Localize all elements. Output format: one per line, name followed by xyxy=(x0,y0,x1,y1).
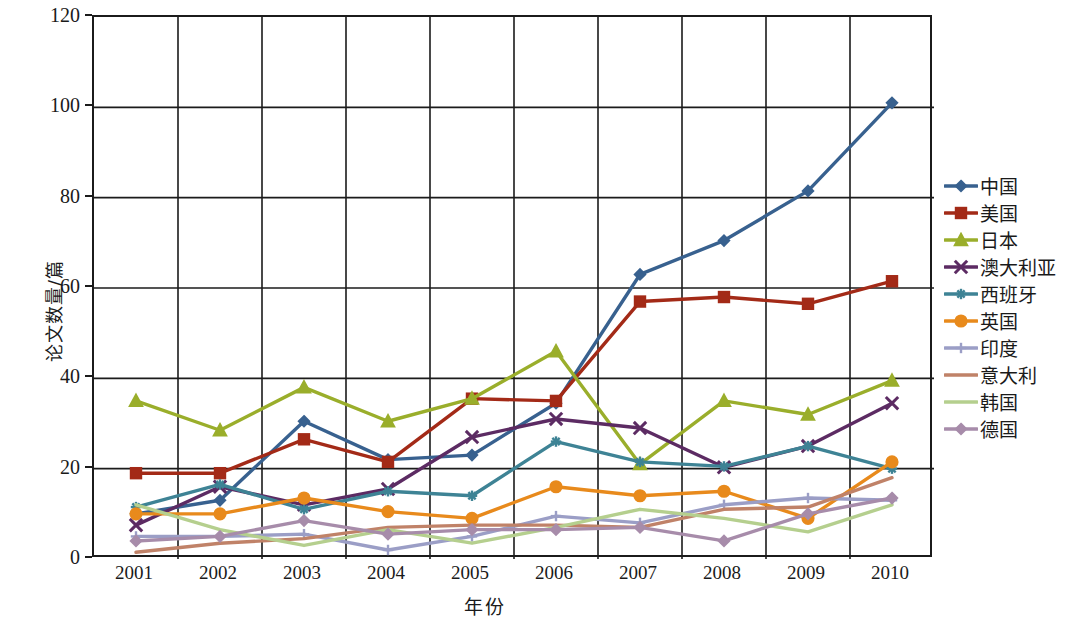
legend-label: 西班牙 xyxy=(980,280,1037,307)
y-tick-label: 80 xyxy=(24,186,80,206)
legend-swatch-icon xyxy=(944,178,978,194)
y-tick-mark xyxy=(85,104,92,106)
legend-swatch-icon xyxy=(944,313,978,329)
y-tick-mark xyxy=(85,285,92,287)
legend-item-2: 日本 xyxy=(944,226,1076,253)
y-tick-mark xyxy=(85,195,92,197)
legend-label: 韩国 xyxy=(980,388,1018,415)
y-tick-label: 40 xyxy=(24,366,80,386)
legend-swatch-icon xyxy=(944,367,978,383)
y-tick-label: 0 xyxy=(24,547,80,567)
legend-item-7: 意大利 xyxy=(944,361,1076,388)
legend-label: 澳大利亚 xyxy=(980,253,1056,280)
legend-swatch-icon xyxy=(944,259,978,275)
x-tick-label: 2005 xyxy=(430,562,510,584)
legend-label: 意大利 xyxy=(980,361,1037,388)
y-tick-label: 60 xyxy=(24,276,80,296)
legend-label: 日本 xyxy=(980,226,1018,253)
legend-item-4: 西班牙 xyxy=(944,280,1076,307)
legend-item-3: 澳大利亚 xyxy=(944,253,1076,280)
legend-item-8: 韩国 xyxy=(944,388,1076,415)
y-tick-mark xyxy=(85,556,92,558)
legend-label: 美国 xyxy=(980,199,1018,226)
legend-item-9: 德国 xyxy=(944,415,1076,442)
y-tick-mark xyxy=(85,466,92,468)
x-tick-label: 2004 xyxy=(346,562,426,584)
x-tick-label: 2007 xyxy=(598,562,678,584)
x-tick-label: 2002 xyxy=(178,562,258,584)
x-tick-label: 2003 xyxy=(262,562,342,584)
y-tick-mark xyxy=(85,375,92,377)
legend-label: 德国 xyxy=(980,415,1018,442)
legend-label: 印度 xyxy=(980,334,1018,361)
chart-legend: 中国美国日本澳大利亚西班牙英国印度意大利韩国德国 xyxy=(944,172,1076,442)
plot-area xyxy=(92,15,932,557)
x-axis-title: 年份 xyxy=(0,592,1079,619)
x-axis-title-text: 年份 xyxy=(464,596,506,618)
legend-swatch-icon xyxy=(944,286,978,302)
legend-item-1: 美国 xyxy=(944,199,1076,226)
y-tick-label: 120 xyxy=(24,5,80,25)
legend-label: 英国 xyxy=(980,307,1018,334)
legend-item-6: 印度 xyxy=(944,334,1076,361)
chart-canvas xyxy=(94,17,934,559)
x-tick-label: 2006 xyxy=(514,562,594,584)
legend-item-5: 英国 xyxy=(944,307,1076,334)
legend-swatch-icon xyxy=(944,232,978,248)
y-tick-label: 100 xyxy=(24,95,80,115)
x-tick-label: 2001 xyxy=(94,562,174,584)
y-tick-mark xyxy=(85,14,92,16)
x-tick-label: 2008 xyxy=(682,562,762,584)
x-tick-label: 2009 xyxy=(766,562,846,584)
y-tick-label: 20 xyxy=(24,457,80,477)
legend-swatch-icon xyxy=(944,394,978,410)
x-tick-label: 2010 xyxy=(850,562,930,584)
legend-swatch-icon xyxy=(944,421,978,437)
legend-swatch-icon xyxy=(944,340,978,356)
chart-figure: 论文数量/篇 120100806040200 20012002200320042… xyxy=(0,0,1079,622)
legend-swatch-icon xyxy=(944,205,978,221)
legend-item-0: 中国 xyxy=(944,172,1076,199)
legend-label: 中国 xyxy=(980,172,1018,199)
